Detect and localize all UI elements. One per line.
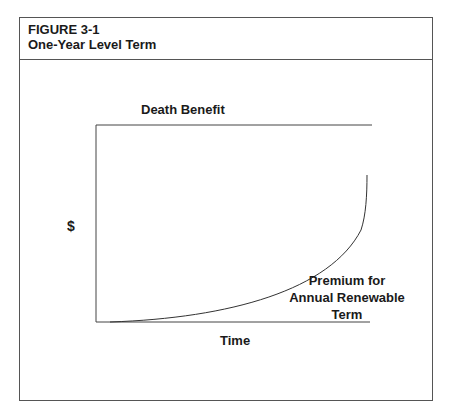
x-axis-label: Time <box>220 333 250 348</box>
death-benefit-label: Death Benefit <box>141 102 225 117</box>
y-axis-label: $ <box>67 218 75 234</box>
premium-label-line1: Premium for <box>280 272 414 289</box>
premium-label: Premium for Annual Renewable Term <box>280 272 414 323</box>
premium-label-line3: Term <box>280 306 414 323</box>
chart-plot <box>0 0 449 415</box>
premium-label-line2: Annual Renewable <box>280 289 414 306</box>
